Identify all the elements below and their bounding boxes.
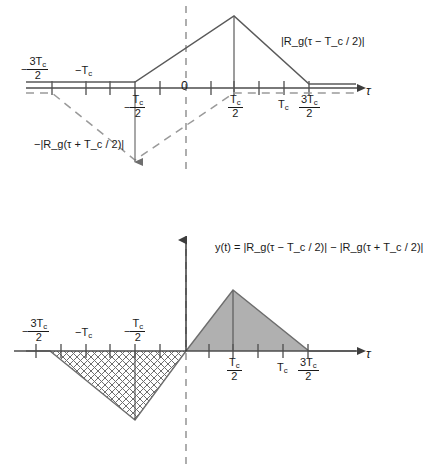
- top-tick-label-neg-tc-over-2: −Tc2: [124, 94, 145, 119]
- top-dashed-curve-label: −|R_g(τ + T_c / 2)|: [34, 139, 124, 150]
- top-tick-label-neg-tc: −Tc: [75, 65, 92, 78]
- bottom-equation-label: y(t) = |R_g(τ − T_c / 2)| − |R_g(τ + T_c…: [215, 242, 423, 253]
- bottom-tick-label-neg-tc: −Tc: [75, 327, 92, 340]
- top-tick-label-neg-3tc-over-2: −3Tc2: [21, 56, 48, 81]
- bottom-axis-label-tau: τ: [366, 348, 371, 361]
- origin-label: 0: [181, 80, 188, 93]
- bottom-tick-label-neg-3tc-over-2: −3Tc2: [22, 318, 49, 343]
- bottom-tick-label-tc: Tc: [277, 362, 288, 375]
- top-tick-label-3tc-over-2: 3Tc2: [299, 94, 320, 119]
- bottom-tick-label-neg-tc-over-2: −Tc2: [124, 318, 145, 343]
- bottom-negative-region: [50, 351, 186, 420]
- bottom-tick-label-3tc-over-2: 3Tc2: [298, 357, 319, 382]
- top-tick-label-tc-over-2: Tc2: [228, 94, 243, 119]
- bottom-tick-label-tc-over-2: Tc2: [227, 357, 242, 382]
- top-solid-curve-label: |R_g(τ − T_c / 2)|: [281, 36, 365, 47]
- top-axis-label-tau: τ: [366, 85, 371, 98]
- bottom-positive-region: [186, 290, 309, 351]
- top-tick-label-tc: Tc: [278, 99, 289, 112]
